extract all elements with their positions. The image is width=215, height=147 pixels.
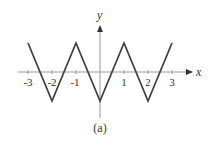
y-axis-label: y — [96, 8, 103, 22]
x-tick-label: -2 — [47, 76, 56, 88]
x-axis-label: x — [195, 65, 202, 79]
x-tick-label: 1 — [121, 76, 127, 88]
figure-caption: (a) — [93, 121, 106, 135]
x-tick-label: -3 — [23, 76, 33, 88]
x-tick-label: 2 — [145, 76, 151, 88]
x-tick-label: 3 — [169, 76, 175, 88]
chart-canvas: -3 -2 -1 1 2 3 x y (a) — [0, 0, 215, 147]
x-tick-label: -1 — [70, 76, 79, 88]
